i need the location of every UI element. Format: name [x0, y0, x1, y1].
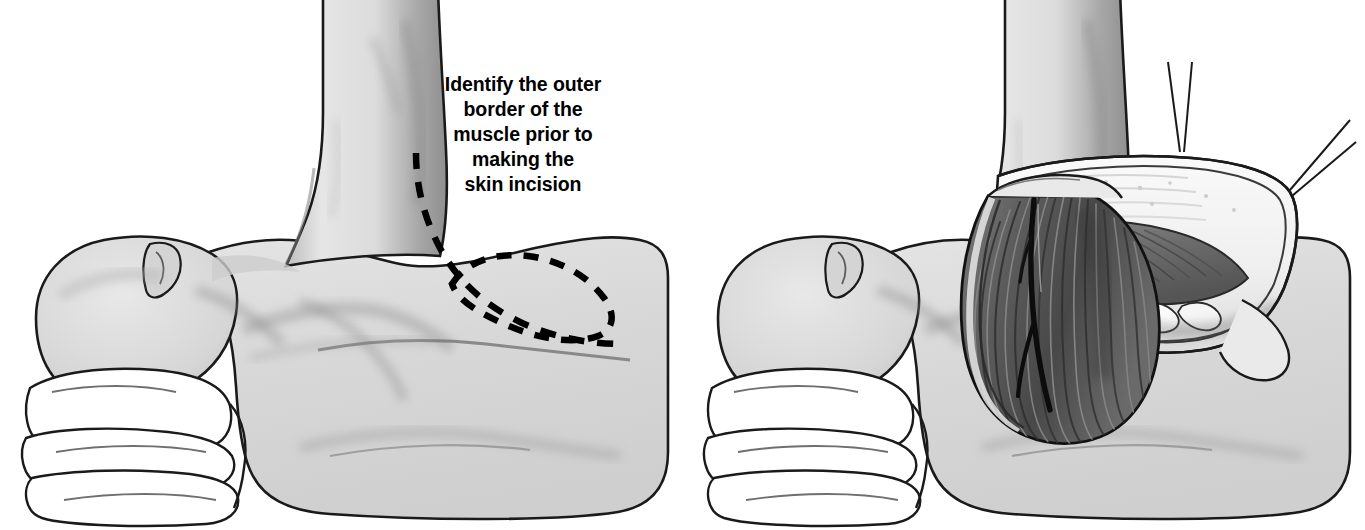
- folded-towels: [22, 369, 245, 526]
- panel-right-artwork: [682, 0, 1365, 530]
- patient-torso: [206, 237, 668, 519]
- panel-left-artwork: [0, 0, 683, 530]
- flap-elevation-panel: Identify pedicle prior to elevation of f…: [682, 0, 1365, 530]
- preoperative-marking-panel: Identify the outer border of the muscle …: [0, 0, 683, 530]
- torso-outline: [206, 237, 668, 519]
- surgical-illustration-figure: Identify the outer border of the muscle …: [0, 0, 1365, 530]
- folded-towels: [704, 369, 927, 526]
